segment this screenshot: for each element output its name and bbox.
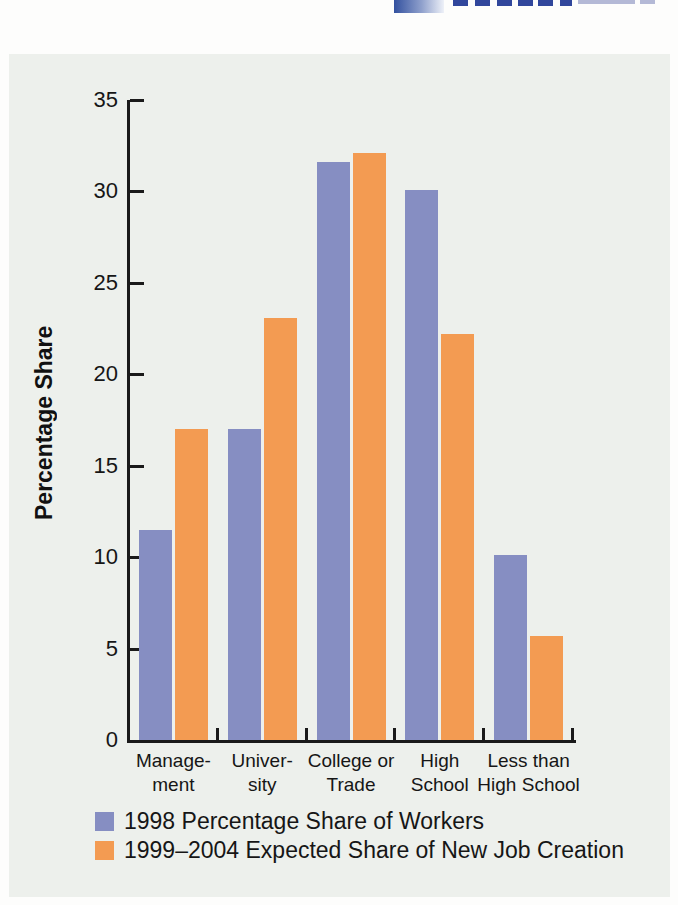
y-tick-label-15: 15 bbox=[66, 453, 118, 479]
logo-letter-fragment bbox=[518, 0, 533, 6]
cropped-logo bbox=[0, 0, 678, 16]
bar-1998-university bbox=[228, 429, 261, 740]
y-tick-15 bbox=[130, 465, 144, 468]
bar-1999-2004-college-or-trade bbox=[353, 153, 386, 740]
legend-swatch-blue bbox=[95, 812, 114, 831]
logo-letter-fragment bbox=[453, 0, 468, 6]
logo-letter-fragment bbox=[640, 0, 655, 4]
bar-1998-less-than-high-school bbox=[494, 555, 527, 740]
bar-1998-college-or-trade bbox=[317, 162, 350, 740]
bar-1999-2004-management bbox=[175, 429, 208, 740]
y-tick-label-35: 35 bbox=[66, 87, 118, 113]
y-tick-30 bbox=[130, 190, 144, 193]
y-tick-label-5: 5 bbox=[66, 636, 118, 662]
page: Percentage Share 1998 Percentage Share o… bbox=[0, 0, 678, 905]
x-tick-4 bbox=[482, 728, 485, 740]
legend: 1998 Percentage Share of Workers 1999–20… bbox=[95, 809, 624, 867]
y-tick-20 bbox=[130, 373, 144, 376]
x-tick-1 bbox=[216, 728, 219, 740]
logo-letter-fragment bbox=[475, 0, 490, 6]
y-tick-35 bbox=[130, 99, 144, 102]
bar-1999-2004-high-school bbox=[441, 334, 474, 740]
bar-1998-management bbox=[139, 530, 172, 740]
logo-gradient-block-icon bbox=[394, 0, 444, 13]
x-tick-3 bbox=[393, 728, 396, 740]
x-tick-2 bbox=[305, 728, 308, 740]
logo-letter-fragment bbox=[560, 0, 572, 6]
logo-letter-fragment bbox=[497, 0, 512, 6]
legend-swatch-orange bbox=[95, 841, 114, 860]
y-axis-line bbox=[127, 100, 130, 743]
bar-1998-high-school bbox=[405, 190, 438, 740]
x-axis-line bbox=[127, 740, 576, 743]
x-category-label-less-than-high-school: Less thanHigh School bbox=[463, 749, 595, 797]
y-tick-25 bbox=[130, 282, 144, 285]
y-tick-label-20: 20 bbox=[66, 361, 118, 387]
logo-letter-fragment bbox=[578, 0, 635, 4]
legend-entry-1999-2004: 1999–2004 Expected Share of New Job Crea… bbox=[95, 838, 624, 862]
y-axis-title: Percentage Share bbox=[31, 266, 58, 580]
y-tick-label-30: 30 bbox=[66, 178, 118, 204]
y-tick-label-25: 25 bbox=[66, 270, 118, 296]
y-tick-label-10: 10 bbox=[66, 544, 118, 570]
bar-1999-2004-university bbox=[264, 318, 297, 740]
logo-letter-fragment bbox=[538, 0, 553, 6]
bar-1999-2004-less-than-high-school bbox=[530, 636, 563, 740]
legend-entry-1998: 1998 Percentage Share of Workers bbox=[95, 809, 624, 833]
x-tick-5 bbox=[571, 728, 574, 740]
legend-label: 1999–2004 Expected Share of New Job Crea… bbox=[124, 838, 624, 862]
legend-label: 1998 Percentage Share of Workers bbox=[124, 809, 484, 833]
